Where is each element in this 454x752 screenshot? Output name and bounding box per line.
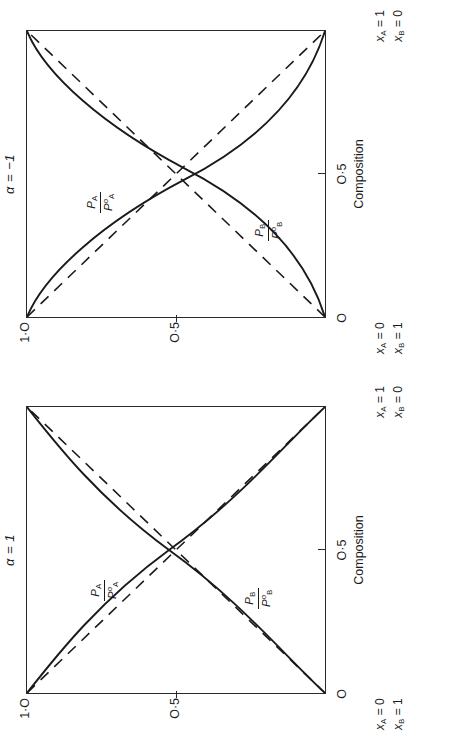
curve-label-pb: PB PoB bbox=[253, 220, 285, 241]
composition-annotation-left-alpha-minus-1: xA = 0 xB = 1 bbox=[372, 322, 407, 354]
curve-label-pb-den-p: P bbox=[260, 599, 272, 607]
ann-right-val2: = 0 bbox=[391, 386, 405, 403]
curve-label-pb-num-sub: B bbox=[248, 592, 257, 597]
ann-right-sub2: B bbox=[397, 30, 406, 35]
curve-label-pa-num-p: P bbox=[89, 589, 101, 597]
plot-panel-alpha-minus-1: α = −1 PA PoA PB bbox=[0, 0, 454, 376]
x-tick-0: O bbox=[335, 689, 349, 699]
y-tickmark-0-5 bbox=[176, 691, 177, 698]
ann-left-sub2: B bbox=[397, 343, 406, 348]
ann-left-val2: = 1 bbox=[391, 322, 405, 339]
curve-label-pa: PA PoA bbox=[89, 580, 121, 601]
ann-right-val1: = 1 bbox=[373, 10, 387, 27]
x-tickmark-0-5 bbox=[318, 173, 326, 174]
ann-right-sub1: A bbox=[379, 406, 388, 411]
curve-label-pa-num-p: P bbox=[85, 201, 97, 209]
ann-left-x2: x bbox=[391, 348, 405, 354]
y-tick-1-0: 1·O bbox=[18, 698, 32, 719]
curve-label-pa-den-sub: A bbox=[107, 194, 116, 199]
ann-left-val1: = 0 bbox=[373, 322, 387, 339]
x-axis-title-alpha-1: Composition bbox=[352, 406, 366, 694]
figure-canvas: α = 1 PA PoA PB bbox=[0, 0, 454, 752]
y-axis-labels-alpha-1: 1·O O·5 bbox=[26, 698, 326, 744]
x-axis-title-alpha-minus-1: Composition bbox=[352, 30, 366, 318]
x-tickmark-0-5 bbox=[318, 549, 326, 550]
x-tick-0: O bbox=[335, 313, 349, 323]
ann-right-x1: x bbox=[373, 412, 387, 418]
plot-curves-alpha-minus-1 bbox=[27, 31, 325, 317]
curve-label-pb-num-sub: B bbox=[258, 224, 267, 229]
ann-right-sub2: B bbox=[397, 406, 406, 411]
y-tickmark-0-5 bbox=[176, 315, 177, 322]
composition-annotation-right-alpha-1: xA = 1 xB = 0 bbox=[372, 386, 407, 418]
ann-left-sub1: A bbox=[379, 343, 388, 348]
ann-left-sub1: A bbox=[379, 719, 388, 724]
curve-label-pb: PB PoB bbox=[243, 588, 275, 609]
ann-left-x1: x bbox=[373, 348, 387, 354]
plot-frame-alpha-1: PA PoA PB PoB bbox=[26, 406, 326, 694]
ann-right-val1: = 1 bbox=[373, 386, 387, 403]
ann-right-val2: = 0 bbox=[391, 10, 405, 27]
curve-label-pb-den-sup: o bbox=[269, 227, 278, 231]
curve-label-pa: PA PoA bbox=[85, 192, 117, 213]
ann-right-x1: x bbox=[373, 36, 387, 42]
composition-annotation-left-alpha-1: xA = 0 xB = 1 bbox=[372, 698, 407, 730]
ann-left-sub2: B bbox=[397, 719, 406, 724]
curve-label-pa-num-sub: A bbox=[90, 196, 99, 201]
x-tick-0-5: O·5 bbox=[335, 164, 349, 185]
ann-right-x2: x bbox=[391, 36, 405, 42]
y-tick-0-5: O·5 bbox=[168, 322, 182, 343]
curve-label-pa-num-sub: A bbox=[94, 584, 103, 589]
ann-right-x2: x bbox=[391, 412, 405, 418]
curve-label-pa-den-p: P bbox=[102, 203, 114, 211]
ann-left-val2: = 1 bbox=[391, 698, 405, 715]
curve-label-pa-den-sup: o bbox=[101, 199, 110, 203]
panel-title-alpha-1: α = 1 bbox=[2, 406, 17, 694]
figure-rotation-wrapper: α = 1 PA PoA PB bbox=[0, 0, 454, 752]
plot-frame-alpha-minus-1: PA PoA PB PoB bbox=[26, 30, 326, 318]
composition-annotation-right-alpha-minus-1: xA = 1 xB = 0 bbox=[372, 10, 407, 42]
x-tick-0-5: O·5 bbox=[335, 540, 349, 561]
curve-label-pa-den-sub: A bbox=[111, 582, 120, 587]
ann-left-x1: x bbox=[373, 724, 387, 730]
curve-label-pa-den-sup: o bbox=[105, 587, 114, 591]
curve-label-pb-num-p: P bbox=[243, 597, 255, 605]
plot-curves-alpha-1 bbox=[27, 407, 325, 693]
y-tick-0-5: O·5 bbox=[168, 698, 182, 719]
ann-right-sub1: A bbox=[379, 30, 388, 35]
curve-label-pb-den-p: P bbox=[270, 231, 282, 239]
plot-panel-alpha-1: α = 1 PA PoA PB bbox=[0, 376, 454, 752]
ann-left-x2: x bbox=[391, 724, 405, 730]
y-tick-1-0: 1·O bbox=[18, 322, 32, 343]
curve-label-pb-num-p: P bbox=[253, 229, 265, 237]
y-axis-labels-alpha-minus-1: 1·O O·5 bbox=[26, 322, 326, 368]
curve-label-pa-den-p: P bbox=[106, 591, 118, 599]
curve-label-pb-den-sub: B bbox=[265, 590, 274, 595]
ann-left-val1: = 0 bbox=[373, 698, 387, 715]
curve-label-pb-den-sub: B bbox=[275, 222, 284, 227]
panel-title-alpha-minus-1: α = −1 bbox=[2, 30, 17, 318]
curve-label-pb-den-sup: o bbox=[259, 595, 268, 599]
